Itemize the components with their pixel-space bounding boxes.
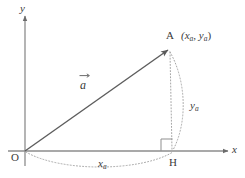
coord-separator: , y [193, 29, 203, 41]
vector-diagram-canvas [0, 0, 245, 178]
component-xa-label: xa [98, 158, 107, 170]
vector-components-figure: y x O A (xa, ya) H ya xa a [0, 0, 245, 178]
point-a-label: A [166, 30, 174, 41]
right-angle-marker [161, 139, 173, 151]
component-xa-subscript: a [103, 162, 107, 171]
coord-close-paren: ) [207, 29, 211, 41]
point-h-label: H [169, 157, 177, 168]
component-ya-label: ya [190, 100, 199, 112]
vector-overbar-arrow-icon [79, 73, 90, 78]
point-a-coordinates-label: (xa, ya) [181, 30, 211, 42]
component-ya-subscript: a [195, 104, 199, 113]
dotted-segment-a-to-h [170, 52, 172, 150]
vector-a-label: a [80, 78, 86, 93]
vector-a-line [25, 50, 168, 151]
vector-a-glyph: a [80, 78, 86, 92]
origin-label: O [11, 152, 19, 163]
x-axis-label: x [232, 144, 237, 155]
coord-x-open: (x [181, 29, 190, 41]
y-axis-label: y [20, 3, 25, 14]
